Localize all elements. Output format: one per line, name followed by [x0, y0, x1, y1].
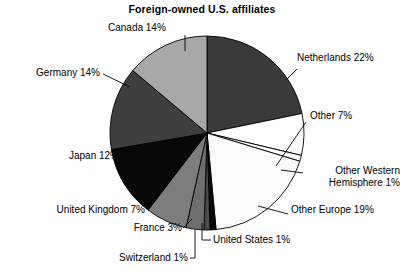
leader-line-netherlands: [287, 69, 297, 79]
slice-label-netherlands: Netherlands 22%: [297, 52, 374, 64]
slice-label-other: Other 7%: [310, 110, 352, 122]
slice-label-other-western-line1: Other Western: [335, 165, 400, 176]
pie-slice-group: [110, 36, 304, 230]
slice-label-switzerland: Switzerland 1%: [119, 252, 188, 264]
pie-chart-figure: Foreign-owned U.S. affiliates Canada 14%…: [0, 0, 404, 279]
slice-label-united-states: United States 1%: [213, 234, 290, 246]
slice-label-japan: Japan 12%: [69, 150, 119, 162]
slice-label-other-western-hemisphere: Other Western Hemisphere 1%: [329, 165, 400, 188]
leader-line-switzerland: [190, 230, 195, 258]
slice-label-canada: Canada 14%: [108, 22, 166, 34]
slice-label-france: France 3%: [134, 222, 182, 234]
slice-label-other-western-line2: Hemisphere 1%: [329, 177, 400, 188]
slice-label-united-kingdom: United Kingdom 7%: [57, 204, 145, 216]
slice-label-germany: Germany 14%: [36, 67, 100, 79]
pie-chart-canvas: [0, 0, 404, 279]
slice-label-other-europe: Other Europe 19%: [291, 204, 374, 216]
